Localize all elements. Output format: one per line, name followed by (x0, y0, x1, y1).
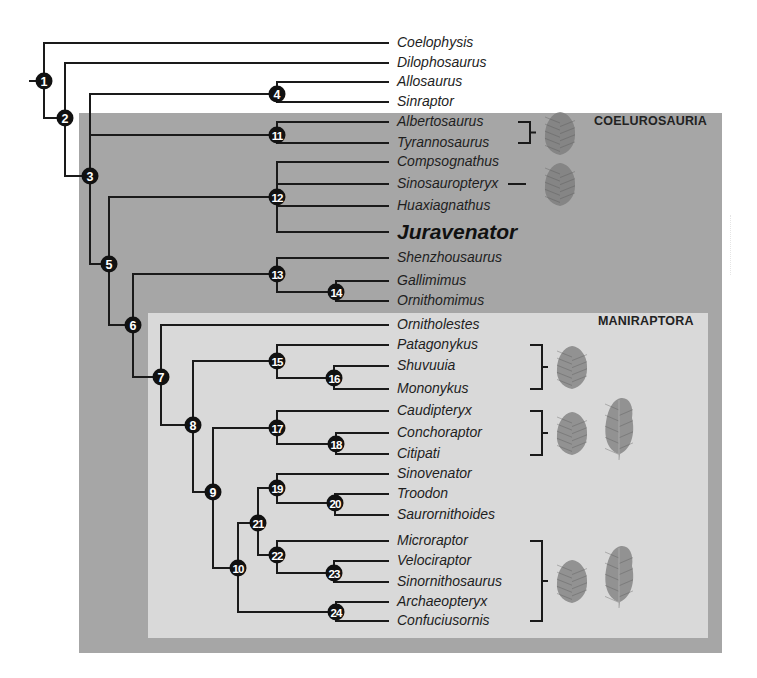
taxon-allosaurus: Allosaurus (397, 73, 462, 89)
taxon-tyrannosaurus: Tyrannosaurus (397, 134, 489, 150)
node-13-marker: 13 (269, 266, 286, 283)
svg-text:10: 10 (232, 563, 244, 575)
node-8-marker: 8 (185, 417, 202, 434)
taxon-albertosaurus: Albertosaurus (397, 113, 483, 129)
svg-text:21: 21 (252, 518, 265, 530)
node-19-marker: 19 (269, 480, 286, 497)
node-21-marker: 21 (250, 515, 267, 532)
node-23-marker: 23 (326, 565, 343, 582)
taxon-sinraptor: Sinraptor (397, 93, 454, 109)
cladogram-figure: COELUROSAURIA MANIRAPTORA 12341151261314… (0, 0, 757, 678)
svg-text:17: 17 (271, 423, 283, 435)
svg-text:18: 18 (330, 439, 343, 451)
taxon-juravenator: Juravenator (397, 220, 517, 244)
svg-text:24: 24 (330, 607, 343, 619)
taxon-shenzhousaurus: Shenzhousaurus (397, 249, 502, 265)
taxon-microraptor: Microraptor (397, 532, 468, 548)
taxon-ornithomimus: Ornithomimus (397, 292, 484, 308)
filament-feather-icon (554, 557, 590, 605)
node-10-marker: 10 (230, 560, 247, 577)
node-16-marker: 16 (326, 370, 343, 387)
node-3-marker: 3 (82, 168, 99, 185)
svg-text:14: 14 (330, 287, 343, 299)
taxon-gallimimus: Gallimimus (397, 272, 466, 288)
phylogenetic-tree: 123411512613147815169171810211920222324 (0, 0, 757, 678)
svg-text:19: 19 (271, 483, 283, 495)
svg-text:13: 13 (271, 269, 283, 281)
filament-feather-icon (542, 160, 578, 208)
node-7-marker: 7 (153, 369, 170, 386)
vaned-feather-icon (602, 544, 636, 610)
svg-text:9: 9 (210, 486, 217, 500)
filament-feather-icon (542, 109, 578, 157)
oviraptorosaur-feathers-bracket (530, 411, 548, 455)
taxon-caudipteryx: Caudipteryx (397, 402, 472, 418)
node-24-marker: 24 (328, 604, 345, 621)
svg-text:12: 12 (271, 192, 283, 204)
taxon-sinornithosaurus: Sinornithosaurus (397, 573, 502, 589)
vaned-feather-icon (602, 396, 636, 462)
svg-text:20: 20 (329, 498, 341, 510)
node-22-marker: 22 (269, 547, 286, 564)
node-6-marker: 6 (125, 317, 142, 334)
taxon-mononykus: Mononykus (397, 380, 469, 396)
taxon-dilophosaurus: Dilophosaurus (397, 54, 487, 70)
node-1-marker: 1 (36, 73, 53, 90)
node-14-marker: 14 (328, 284, 345, 301)
node-12-marker: 12 (269, 189, 286, 206)
node-20-marker: 20 (327, 495, 344, 512)
svg-text:7: 7 (158, 371, 165, 385)
taxon-compsognathus: Compsognathus (397, 153, 499, 169)
taxon-huaxiagnathus: Huaxiagnathus (397, 197, 490, 213)
taxon-velociraptor: Velociraptor (397, 552, 471, 568)
svg-text:23: 23 (328, 568, 340, 580)
svg-text:2: 2 (62, 112, 69, 126)
svg-text:11: 11 (272, 130, 284, 142)
taxon-patagonykus: Patagonykus (397, 336, 478, 352)
svg-text:4: 4 (274, 88, 281, 102)
taxon-sinosauropteryx: Sinosauropteryx (397, 175, 498, 191)
svg-text:8: 8 (190, 419, 197, 433)
svg-text:22: 22 (271, 550, 283, 562)
node-2-marker: 2 (57, 110, 74, 127)
taxon-troodon: Troodon (397, 485, 448, 501)
taxon-coelophysis: Coelophysis (397, 34, 473, 50)
node-11-marker: 11 (269, 127, 286, 144)
taxon-sinovenator: Sinovenator (397, 465, 472, 481)
node-18-marker: 18 (328, 436, 345, 453)
filament-feather-icon (554, 409, 590, 457)
svg-text:5: 5 (106, 258, 113, 272)
svg-text:6: 6 (130, 319, 137, 333)
node-9-marker: 9 (205, 484, 222, 501)
alvarezsaurid-feathers-bracket (530, 345, 548, 389)
taxon-citipati: Citipati (397, 445, 440, 461)
node-5-marker: 5 (101, 256, 118, 273)
svg-text:3: 3 (87, 170, 94, 184)
taxon-conchoraptor: Conchoraptor (397, 424, 482, 440)
svg-text:1: 1 (41, 75, 48, 89)
node-15-marker: 15 (269, 353, 286, 370)
margin-mark (730, 215, 741, 275)
node-17-marker: 17 (269, 420, 286, 437)
taxon-shuvuuia: Shuvuuia (397, 357, 455, 373)
filament-feather-icon (554, 343, 590, 391)
taxon-archaeopteryx: Archaeopteryx (397, 593, 487, 609)
taxon-saurornithoides: Saurornithoides (397, 506, 495, 522)
svg-text:15: 15 (271, 356, 284, 368)
node-4-marker: 4 (269, 86, 286, 103)
taxon-ornitholestes: Ornitholestes (397, 316, 479, 332)
taxon-confuciusornis: Confuciusornis (397, 612, 490, 628)
tyrannosauroid-feathers-bracket (518, 122, 536, 143)
paravian-feathers-bracket (530, 541, 548, 621)
svg-text:16: 16 (328, 373, 340, 385)
